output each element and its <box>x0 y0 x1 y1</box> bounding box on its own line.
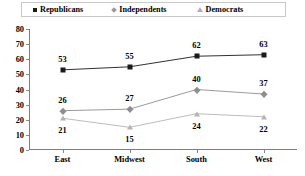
legend-item-democrats: Democrats <box>197 5 244 14</box>
y-axis-tick-label: 70 <box>16 40 24 49</box>
y-axis-tick-label: 10 <box>16 130 24 139</box>
data-point-republicans <box>127 64 132 69</box>
value-label-independents: 40 <box>192 74 200 83</box>
value-label-democrats: 15 <box>125 135 133 144</box>
line-democrats <box>63 114 264 128</box>
y-axis-tick <box>26 150 29 151</box>
value-label-republicans: 62 <box>192 41 200 50</box>
value-label-independents: 37 <box>259 79 267 88</box>
square-marker-icon <box>33 8 37 12</box>
x-axis-tick <box>130 150 131 153</box>
data-point-republicans <box>60 67 65 72</box>
legend-label-republicans: Republicans <box>40 5 83 14</box>
y-axis-tick-label: 60 <box>16 55 24 64</box>
y-axis-tick-label: 40 <box>16 85 24 94</box>
line-independents <box>63 90 264 111</box>
line-chart: Republicans Independents Democrats 01020… <box>0 0 305 176</box>
value-label-independents: 27 <box>125 94 133 103</box>
series-lines <box>29 29 297 150</box>
chart-legend: Republicans Independents Democrats <box>21 2 286 17</box>
data-point-democrats <box>60 116 66 121</box>
legend-item-republicans: Republicans <box>33 5 83 14</box>
value-label-democrats: 24 <box>192 121 200 130</box>
x-axis-label-west: West <box>255 155 273 164</box>
x-axis-tick <box>63 150 64 153</box>
legend-item-independents: Independents <box>112 5 166 14</box>
x-axis-label-south: South <box>186 155 207 164</box>
value-label-independents: 26 <box>58 95 66 104</box>
y-axis-tick-label: 80 <box>16 25 24 34</box>
data-point-democrats <box>194 111 200 116</box>
diamond-marker-icon <box>111 7 117 13</box>
line-republicans <box>63 55 264 70</box>
data-point-democrats <box>261 114 267 119</box>
y-axis-tick-label: 20 <box>16 115 24 124</box>
y-axis-tick-label: 50 <box>16 70 24 79</box>
y-axis-tick-label: 0 <box>20 146 24 155</box>
value-label-democrats: 21 <box>58 126 66 135</box>
triangle-marker-icon <box>197 7 203 12</box>
legend-label-democrats: Democrats <box>206 5 244 14</box>
value-label-republicans: 55 <box>125 51 133 60</box>
x-axis-label-east: East <box>55 155 71 164</box>
value-label-democrats: 22 <box>259 124 267 133</box>
data-point-democrats <box>127 125 133 130</box>
data-point-republicans <box>261 52 266 57</box>
legend-label-independents: Independents <box>119 5 166 14</box>
x-axis-tick <box>197 150 198 153</box>
x-axis-label-midwest: Midwest <box>114 155 145 164</box>
x-axis-tick <box>264 150 265 153</box>
value-label-republicans: 53 <box>58 54 66 63</box>
data-point-republicans <box>194 54 199 59</box>
plot-area: 01020304050607080 EastMidwestSouthWest 5… <box>29 29 297 150</box>
y-axis-tick-label: 30 <box>16 100 24 109</box>
value-label-republicans: 63 <box>259 39 267 48</box>
